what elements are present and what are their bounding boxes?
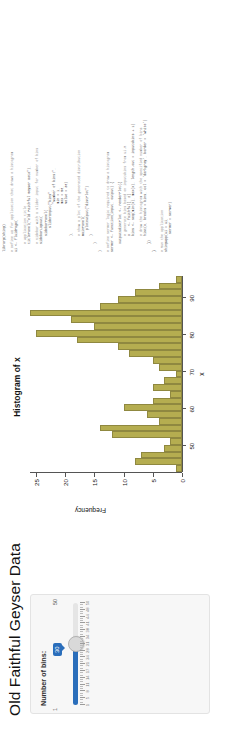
slider-minor-tick [80,613,83,614]
slider-minor-tick [80,607,83,608]
histogram-bar [30,310,182,317]
slider-minor-tick [80,668,83,669]
x-tick-label: 80 [188,332,195,339]
histogram-bar [135,289,182,296]
y-axis-line [30,472,182,473]
slider-tick-label: 17 [85,669,90,674]
slider-minor-tick [80,699,83,700]
histogram-bar [147,411,182,418]
histogram-bar [141,452,182,459]
slider-minor-tick [80,647,83,648]
slider-minor-tick [80,634,83,635]
slider-tick-label: 31 [85,642,90,647]
x-tick [182,297,186,298]
x-tick-label: 60 [188,406,195,413]
histogram-bar [153,398,182,405]
page-title: Old Faithful Geyser Data [6,543,24,716]
y-tick-label: 15 [91,479,98,486]
slider-tick-label: 8 [85,690,90,692]
slider-value-bubble: 30 [53,643,62,656]
histogram-bar [118,296,182,303]
y-tick [153,473,154,477]
slider-minor-tick [80,652,83,653]
x-axis-line [182,276,183,472]
x-tick [182,408,186,409]
slider-minor-tick [80,611,83,612]
slider-label: Number of bins: [39,651,48,706]
x-tick [182,445,186,446]
histogram-bar [170,391,182,398]
slider-tick-label: 44 [85,614,90,619]
slider-minor-tick [80,625,83,626]
shiny-app-pane: Old Faithful Geyser Data Number of bins:… [0,514,236,722]
histogram-bar [94,323,182,330]
histogram-bar [129,350,182,357]
histogram-bar [159,418,182,425]
histogram-bar [77,337,182,344]
histogram-bars [30,276,182,472]
histogram-bar [159,364,182,371]
slider-tick-label: 21 [85,662,90,667]
slider-minor-tick [80,645,83,646]
x-tick-label: 90 [188,295,195,302]
slider-minor-tick [80,620,83,621]
slider-minor-tick [80,681,83,682]
histogram-bar [36,330,182,337]
slider-minor-tick [80,631,83,632]
code-line: server = server) [168,2,172,252]
slider-tick-label: 41 [85,621,90,626]
histogram-bar [159,283,182,290]
y-tick-label: 5 [149,479,156,482]
slider-minor-tick [80,627,83,628]
slider-tick-label: 38 [85,628,90,633]
x-tick [182,371,186,372]
r-source-code: library(shiny) # Define UI for applicati… [2,2,234,252]
y-tick [182,473,183,477]
slider-tick-label: 48 [85,608,90,613]
slider-minor-tick [80,693,83,694]
histogram-bar [164,377,182,384]
histogram-bar [135,458,182,465]
histogram-plot-pane: Histogram of x 5060708090 0510152025 x F… [0,262,236,512]
y-tick-label: 20 [62,479,69,486]
slider-minor-tick [80,604,83,605]
slider-minor-tick [80,686,83,687]
histogram-bar [112,431,182,438]
slider-minor-tick [80,679,83,680]
slider-minor-tick [80,702,83,703]
slider-minor-tick [80,665,83,666]
histogram-bar [170,438,182,445]
chart-title: Histogram of x [12,262,22,512]
histogram-bar [124,404,182,411]
slider-min-label: 1 [52,708,58,711]
histogram-bar [164,445,182,452]
plot-area [30,276,182,472]
y-axis-label: Frequency [75,507,106,514]
slider-tick-label: 14 [85,676,90,681]
sidebar-well-panel: Number of bins: 1 50 30 1581114172124283… [30,594,210,714]
slider-max-label: 50 [52,599,58,605]
x-axis-label: x [198,276,205,472]
slider-tick-label: 28 [85,648,90,653]
bins-slider[interactable]: 1 50 30 15811141721242831343841444850 [57,603,101,705]
rotated-screenshot-stage: Old Faithful Geyser Data Number of bins:… [0,0,236,730]
y-tick-label: 25 [32,479,39,486]
slider-tick-label: 50 [85,601,90,606]
y-tick [94,473,95,477]
slider-tick-label: 24 [85,655,90,660]
histogram-bar [100,303,182,310]
histogram-bar [100,425,182,432]
slider-minor-tick [80,675,83,676]
slider-minor-tick [80,688,83,689]
slider-minor-tick [80,672,83,673]
y-tick [36,473,37,477]
slider-minor-tick [80,695,83,696]
slider-tick-label: 5 [85,697,90,699]
slider-minor-tick [80,641,83,642]
y-tick-label: 0 [179,479,186,482]
slider-minor-tick [80,661,83,662]
x-tick-label: 50 [188,443,195,450]
y-tick-label: 10 [120,479,127,486]
histogram-bar [153,357,182,364]
slider-minor-tick [80,638,83,639]
